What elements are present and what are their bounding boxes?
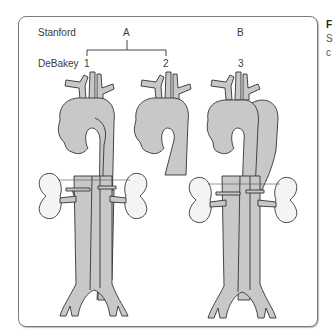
stanford-a-bracket xyxy=(87,40,166,56)
aorta-type-1 xyxy=(58,72,128,316)
aorta-type-2 xyxy=(134,72,191,175)
